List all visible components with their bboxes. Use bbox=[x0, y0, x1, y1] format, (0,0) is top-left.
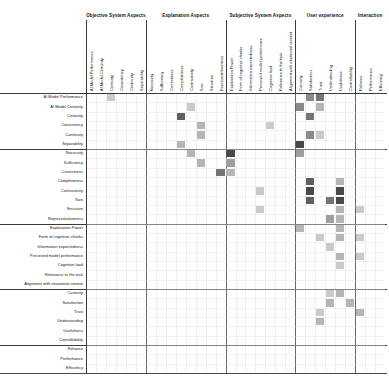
heatmap-cell bbox=[356, 309, 364, 317]
row-label: Curiosity bbox=[0, 291, 83, 295]
heatmap-cell bbox=[226, 150, 234, 158]
column-label: Size bbox=[200, 83, 204, 91]
matrix-chart: Objective System AspectsExplanation Aspe… bbox=[0, 0, 389, 390]
column-group-label: Interaction bbox=[355, 14, 385, 19]
row-label: Certainty bbox=[0, 114, 83, 118]
row-label: Continuity bbox=[0, 133, 83, 137]
heatmap-cell bbox=[177, 113, 185, 121]
y-axis-line bbox=[86, 20, 87, 373]
column-label: Correctness bbox=[170, 70, 174, 91]
grid-line-horizontal bbox=[86, 168, 385, 169]
row-label: Necessity bbox=[0, 151, 83, 155]
row-label: Explanation Power bbox=[0, 226, 83, 230]
heatmap-cell bbox=[336, 234, 344, 242]
row-label: Perceived model performance bbox=[0, 254, 83, 258]
row-label: Sufficiency bbox=[0, 161, 83, 165]
row-label: Understanding bbox=[0, 319, 83, 323]
column-label: Alignment with situational context bbox=[289, 32, 293, 91]
grid-line-horizontal bbox=[86, 354, 385, 355]
column-label: Completeness bbox=[180, 66, 184, 91]
heatmap-cell bbox=[306, 187, 314, 195]
row-label: Correctness bbox=[0, 170, 83, 174]
heatmap-cell bbox=[256, 187, 264, 195]
heatmap-cell bbox=[336, 215, 344, 223]
heatmap-cell bbox=[197, 131, 205, 139]
row-label: Size bbox=[0, 198, 83, 202]
row-label: Performance bbox=[0, 357, 83, 361]
heatmap-cell bbox=[306, 178, 314, 186]
grid-line-horizontal bbox=[86, 102, 385, 103]
heatmap-cell bbox=[306, 197, 314, 205]
row-label: Separability bbox=[0, 142, 83, 146]
grid-line-horizontal bbox=[86, 326, 385, 327]
column-label: Curiosity bbox=[299, 76, 303, 91]
column-label: Efficiency bbox=[379, 74, 383, 91]
heatmap-cell bbox=[266, 122, 274, 130]
heatmap-cell bbox=[107, 94, 115, 102]
heatmap-cell bbox=[197, 159, 205, 167]
column-label: Representativeness bbox=[220, 56, 224, 91]
heatmap-cell bbox=[336, 197, 344, 205]
row-label: Completeness bbox=[0, 179, 83, 183]
row-label: Controllability bbox=[0, 338, 83, 342]
heatmap-cell bbox=[187, 150, 195, 158]
row-label: Consistency bbox=[0, 123, 83, 127]
column-label: Consistency bbox=[120, 69, 124, 91]
column-label: Perceived model performance bbox=[260, 38, 264, 91]
column-group-label: Objective System Aspects bbox=[86, 14, 146, 19]
grid-line-horizontal bbox=[86, 149, 385, 150]
heatmap-cell bbox=[356, 253, 364, 261]
heatmap-cell bbox=[326, 215, 334, 223]
row-label: Reliance bbox=[0, 347, 83, 351]
column-label: Continuity bbox=[130, 73, 134, 91]
column-label: Satisfaction bbox=[309, 70, 313, 91]
heatmap-cell bbox=[296, 103, 304, 111]
grid-line-horizontal bbox=[86, 308, 385, 309]
grid-line-horizontal bbox=[86, 242, 385, 243]
grid-line-horizontal bbox=[86, 317, 385, 318]
row-label: AI Model Certainty bbox=[0, 105, 83, 109]
heatmap-cell bbox=[306, 113, 314, 121]
column-label: Explanation Power bbox=[230, 58, 234, 91]
column-label: Cognitive load bbox=[269, 66, 273, 91]
grid-line-horizontal bbox=[86, 140, 385, 141]
heatmap-cell bbox=[187, 103, 195, 111]
heatmap-cell bbox=[256, 206, 264, 214]
row-label: Contrastivity bbox=[0, 189, 83, 193]
column-label: Usefulness bbox=[339, 71, 343, 91]
column-label: Understanding bbox=[329, 65, 333, 91]
heatmap-cell bbox=[306, 94, 314, 102]
grid-line-horizontal bbox=[86, 270, 385, 271]
heatmap-cell bbox=[316, 318, 324, 326]
column-label: Structure bbox=[210, 75, 214, 91]
grid-line-horizontal bbox=[86, 121, 385, 122]
column-label: Form of cognitive chunks bbox=[240, 47, 244, 91]
column-label: Certainty bbox=[110, 75, 114, 91]
column-label: Sufficiency bbox=[160, 72, 164, 91]
row-label: Relevance to the task bbox=[0, 273, 83, 277]
heatmap-cell bbox=[346, 299, 354, 307]
heatmap-cell bbox=[316, 94, 324, 102]
heatmap-cell bbox=[316, 131, 324, 139]
heatmap-cell bbox=[326, 299, 334, 307]
grid-line-horizontal bbox=[86, 158, 385, 159]
heatmap-cell bbox=[296, 150, 304, 158]
row-label: AI Model Performance bbox=[0, 95, 83, 99]
heatmap-cell bbox=[316, 234, 324, 242]
heatmap-cell bbox=[336, 262, 344, 270]
heatmap-cell bbox=[336, 187, 344, 195]
grid-line-horizontal bbox=[86, 364, 385, 365]
grid-line-horizontal bbox=[86, 112, 385, 113]
row-label: Information expectedness bbox=[0, 245, 83, 249]
column-label: AI Model Performance bbox=[90, 52, 94, 92]
column-label: Separability bbox=[140, 70, 144, 91]
row-label: Structure bbox=[0, 207, 83, 211]
row-label: Trust bbox=[0, 310, 83, 314]
grid-line-horizontal bbox=[86, 130, 385, 131]
column-label: Contrastivity bbox=[190, 69, 194, 91]
column-label: Controllability bbox=[349, 67, 353, 91]
column-label: Relevance to the task bbox=[279, 53, 283, 91]
heatmap-cell bbox=[226, 159, 234, 167]
column-label: Necessity bbox=[150, 74, 154, 91]
row-label: Usefulness bbox=[0, 329, 83, 333]
